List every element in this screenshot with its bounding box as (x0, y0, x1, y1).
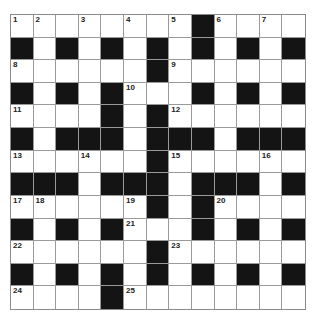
answer-cell[interactable] (169, 196, 192, 219)
answer-cell[interactable]: 13 (11, 151, 34, 174)
answer-cell[interactable] (215, 151, 238, 174)
answer-cell[interactable] (215, 83, 238, 106)
answer-cell[interactable]: 16 (260, 151, 283, 174)
answer-cell[interactable] (192, 151, 215, 174)
answer-cell[interactable] (215, 241, 238, 264)
answer-cell[interactable] (282, 286, 305, 309)
answer-cell[interactable] (34, 286, 57, 309)
answer-cell[interactable]: 14 (79, 151, 102, 174)
answer-cell[interactable] (260, 264, 283, 287)
answer-cell[interactable] (237, 15, 260, 38)
answer-cell[interactable] (124, 60, 147, 83)
answer-cell[interactable]: 17 (11, 196, 34, 219)
answer-cell[interactable]: 19 (124, 196, 147, 219)
answer-cell[interactable] (260, 60, 283, 83)
answer-cell[interactable] (56, 15, 79, 38)
answer-cell[interactable] (101, 15, 124, 38)
answer-cell[interactable]: 9 (169, 60, 192, 83)
answer-cell[interactable] (101, 241, 124, 264)
answer-cell[interactable] (124, 38, 147, 61)
answer-cell[interactable] (192, 105, 215, 128)
answer-cell[interactable]: 1 (11, 15, 34, 38)
answer-cell[interactable] (147, 286, 170, 309)
answer-cell[interactable] (215, 105, 238, 128)
answer-cell[interactable] (79, 60, 102, 83)
answer-cell[interactable] (282, 241, 305, 264)
answer-cell[interactable] (79, 264, 102, 287)
answer-cell[interactable] (215, 286, 238, 309)
answer-cell[interactable] (147, 83, 170, 106)
answer-cell[interactable] (56, 105, 79, 128)
answer-cell[interactable] (237, 60, 260, 83)
answer-cell[interactable]: 4 (124, 15, 147, 38)
answer-cell[interactable] (192, 241, 215, 264)
answer-cell[interactable] (237, 241, 260, 264)
answer-cell[interactable]: 22 (11, 241, 34, 264)
answer-cell[interactable] (215, 219, 238, 242)
answer-cell[interactable] (79, 105, 102, 128)
answer-cell[interactable] (237, 196, 260, 219)
answer-cell[interactable] (124, 241, 147, 264)
answer-cell[interactable] (34, 151, 57, 174)
answer-cell[interactable] (169, 286, 192, 309)
answer-cell[interactable] (34, 83, 57, 106)
answer-cell[interactable] (79, 83, 102, 106)
answer-cell[interactable] (34, 38, 57, 61)
answer-cell[interactable] (169, 83, 192, 106)
answer-cell[interactable] (56, 241, 79, 264)
answer-cell[interactable] (260, 38, 283, 61)
answer-cell[interactable] (237, 286, 260, 309)
answer-cell[interactable] (192, 286, 215, 309)
answer-cell[interactable] (169, 264, 192, 287)
answer-cell[interactable] (237, 151, 260, 174)
answer-cell[interactable] (56, 196, 79, 219)
answer-cell[interactable] (282, 15, 305, 38)
answer-cell[interactable] (79, 241, 102, 264)
answer-cell[interactable] (34, 219, 57, 242)
answer-cell[interactable]: 3 (79, 15, 102, 38)
answer-cell[interactable] (124, 128, 147, 151)
answer-cell[interactable]: 2 (34, 15, 57, 38)
answer-cell[interactable]: 8 (11, 60, 34, 83)
answer-cell[interactable] (34, 128, 57, 151)
answer-cell[interactable] (56, 151, 79, 174)
answer-cell[interactable] (169, 219, 192, 242)
answer-cell[interactable] (169, 38, 192, 61)
answer-cell[interactable] (282, 60, 305, 83)
answer-cell[interactable] (34, 241, 57, 264)
answer-cell[interactable]: 7 (260, 15, 283, 38)
answer-cell[interactable] (282, 105, 305, 128)
answer-cell[interactable] (260, 105, 283, 128)
answer-cell[interactable] (169, 173, 192, 196)
answer-cell[interactable] (260, 173, 283, 196)
answer-cell[interactable] (101, 60, 124, 83)
answer-cell[interactable]: 18 (34, 196, 57, 219)
answer-cell[interactable] (147, 219, 170, 242)
answer-cell[interactable]: 11 (11, 105, 34, 128)
answer-cell[interactable]: 21 (124, 219, 147, 242)
answer-cell[interactable] (34, 264, 57, 287)
answer-cell[interactable] (79, 219, 102, 242)
answer-cell[interactable] (101, 196, 124, 219)
answer-cell[interactable]: 10 (124, 83, 147, 106)
answer-cell[interactable] (124, 151, 147, 174)
answer-cell[interactable] (192, 60, 215, 83)
answer-cell[interactable]: 12 (169, 105, 192, 128)
answer-cell[interactable] (34, 105, 57, 128)
answer-cell[interactable]: 25 (124, 286, 147, 309)
answer-cell[interactable] (101, 151, 124, 174)
answer-cell[interactable]: 24 (11, 286, 34, 309)
answer-cell[interactable] (56, 60, 79, 83)
answer-cell[interactable] (215, 38, 238, 61)
answer-cell[interactable]: 15 (169, 151, 192, 174)
answer-cell[interactable] (215, 264, 238, 287)
answer-cell[interactable] (260, 83, 283, 106)
answer-cell[interactable] (79, 173, 102, 196)
answer-cell[interactable] (215, 60, 238, 83)
answer-cell[interactable] (260, 219, 283, 242)
answer-cell[interactable] (124, 105, 147, 128)
answer-cell[interactable] (56, 286, 79, 309)
answer-cell[interactable] (79, 286, 102, 309)
answer-cell[interactable] (282, 196, 305, 219)
answer-cell[interactable]: 20 (215, 196, 238, 219)
